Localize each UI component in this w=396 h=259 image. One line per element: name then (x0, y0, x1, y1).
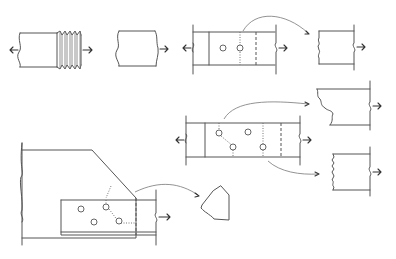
arrow-right-icon (303, 137, 311, 143)
bolt-hole (260, 144, 266, 150)
block-shear-piece (201, 186, 229, 220)
curved-arrow (135, 184, 198, 195)
bolt-hole (216, 130, 222, 136)
straight-rupture-piece (332, 147, 381, 196)
failure-modes-diagram (0, 0, 396, 259)
arrow-left-icon (10, 47, 18, 53)
plate-net-section-piece (318, 25, 365, 70)
arrow-right-icon (83, 47, 92, 53)
gusset-block-shear (20, 143, 199, 245)
curved-arrow (268, 161, 318, 174)
bolt-hole (220, 45, 226, 51)
fractured-rod (116, 31, 168, 66)
bolt-hole (103, 204, 109, 210)
arrow-right-icon (357, 44, 365, 50)
arrow-right-icon (373, 103, 381, 109)
bolt-hole (237, 45, 243, 51)
arrow-right-icon (159, 214, 170, 220)
bolted-plate-four-holes (176, 102, 319, 176)
arrow-right-icon (160, 46, 168, 52)
arrow-right-icon (279, 45, 287, 51)
curved-arrow (224, 102, 308, 119)
arrow-left-icon (176, 137, 184, 143)
bolted-plate-two-holes (183, 16, 309, 74)
arrow-right-icon (373, 169, 381, 175)
bolt-hole (78, 206, 84, 212)
bolt-hole (91, 219, 97, 225)
bolt-hole (245, 129, 251, 135)
staggered-rupture-piece (317, 81, 381, 130)
bolt-hole (116, 218, 122, 224)
threaded-rod (10, 31, 92, 69)
arrow-left-icon (183, 45, 191, 51)
bolt-hole (230, 144, 236, 150)
